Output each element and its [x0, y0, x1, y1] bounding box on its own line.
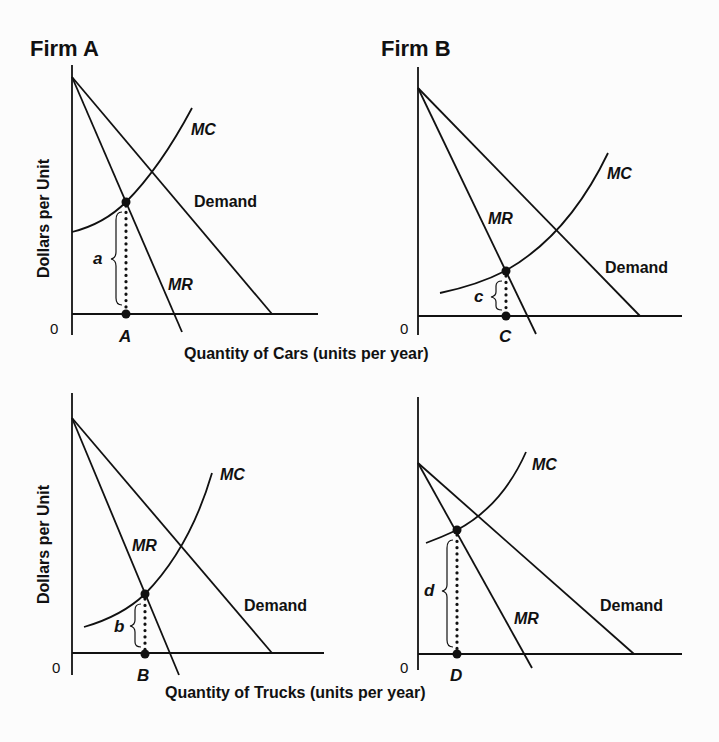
panel-firm-a-cars: Firm A a MC Demand MR 0 A Dollars per Un…: [30, 36, 318, 346]
gap-brace: [491, 281, 502, 310]
mc-curve: [426, 452, 526, 543]
panel-firm-b-trucks: d MC MR Demand 0 D: [400, 397, 682, 685]
economics-diagram: Firm A a MC Demand MR 0 A Dollars per Un…: [0, 0, 719, 742]
panel-title: Firm B: [381, 36, 451, 61]
panel-title: Firm A: [30, 36, 99, 61]
panel-firm-a-trucks: b MC MR Demand 0 B Dollars per Unit: [35, 393, 324, 685]
mr-mc-intersection-point: [141, 590, 150, 599]
output-point: [141, 650, 150, 659]
mr-label: MR: [168, 276, 193, 293]
x-axis-label-cars: Quantity of Cars (units per year): [184, 345, 429, 362]
demand-label: Demand: [605, 259, 668, 276]
output-point-label: C: [499, 327, 512, 346]
output-point-label: A: [118, 327, 131, 346]
output-point: [502, 312, 511, 321]
origin-label: 0: [400, 659, 408, 676]
demand-curve: [418, 88, 640, 316]
demand-label: Demand: [600, 597, 663, 614]
gap-brace: [130, 604, 141, 647]
gap-label: c: [474, 287, 484, 306]
demand-label: Demand: [244, 597, 307, 614]
panel-firm-b-cars: Firm B c MC MR Demand 0 C: [381, 36, 682, 346]
output-point-label: D: [450, 666, 462, 685]
mc-label: MC: [607, 165, 632, 182]
gap-label: b: [114, 617, 124, 636]
demand-curve: [72, 418, 272, 653]
gap-brace: [442, 540, 453, 647]
mr-mc-intersection-point: [502, 267, 511, 276]
x-axis-label-trucks: Quantity of Trucks (units per year): [165, 684, 426, 701]
mr-label: MR: [488, 210, 513, 227]
output-point-label: B: [137, 666, 149, 685]
output-point: [122, 310, 131, 319]
origin-label: 0: [52, 659, 60, 676]
output-point: [453, 650, 462, 659]
mr-curve: [418, 463, 532, 668]
origin-label: 0: [50, 320, 58, 337]
gap-label: a: [93, 249, 102, 268]
mc-label: MC: [191, 121, 216, 138]
demand-label: Demand: [194, 193, 257, 210]
mc-curve: [440, 153, 608, 293]
mc-curve: [72, 108, 192, 232]
mr-label: MR: [514, 610, 539, 627]
mc-label: MC: [220, 466, 245, 483]
mr-curve: [72, 418, 179, 675]
mr-label: MR: [132, 537, 157, 554]
mr-mc-intersection-point: [453, 526, 462, 535]
gap-label: d: [424, 581, 435, 600]
mc-label: MC: [532, 456, 557, 473]
mr-mc-intersection-point: [122, 198, 131, 207]
y-axis-label: Dollars per Unit: [35, 484, 52, 604]
y-axis-label: Dollars per Unit: [35, 158, 52, 278]
origin-label: 0: [400, 320, 408, 337]
gap-brace: [111, 212, 122, 305]
